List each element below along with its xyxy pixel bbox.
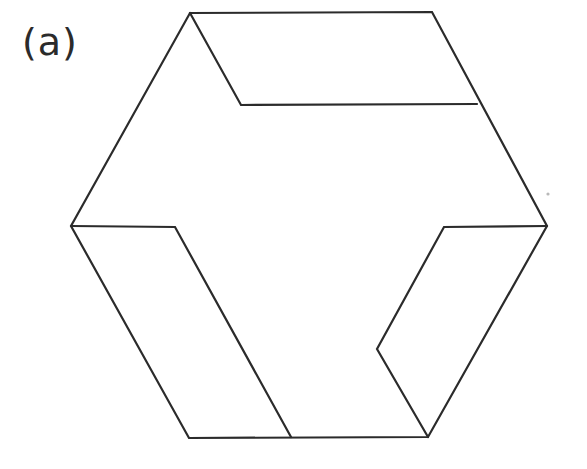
- figure-background: [0, 0, 587, 469]
- scan-speck-icon: [546, 192, 549, 195]
- impossible-figure-drawing: [0, 0, 587, 469]
- figure-panel: (a): [0, 0, 587, 469]
- panel-label: (a): [22, 23, 78, 61]
